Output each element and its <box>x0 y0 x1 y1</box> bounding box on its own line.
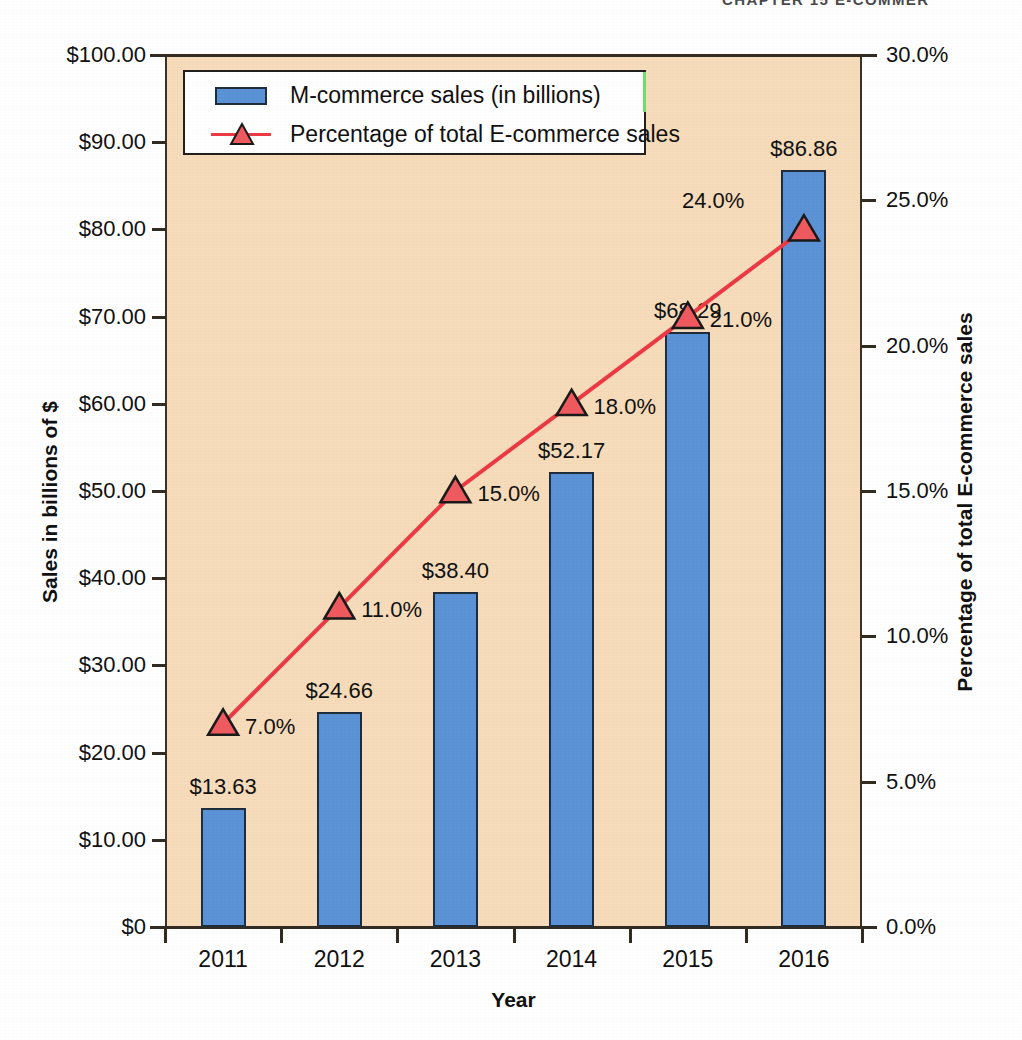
x-axis-tick-label: 2011 <box>198 946 247 973</box>
y-axis-left-tick-mark <box>152 403 166 406</box>
x-axis-tick-mark <box>280 929 283 943</box>
y-axis-right-tick-label: 5.0% <box>886 769 936 795</box>
triangle-marker-icon <box>229 122 255 146</box>
bar-2014[interactable] <box>549 472 594 927</box>
combo-chart-figure: Sales in billions of $ Percentage of tot… <box>0 0 1022 1040</box>
bar-value-label-2011: $13.63 <box>189 774 256 800</box>
x-axis-tick-label: 2014 <box>546 946 597 973</box>
y-axis-right-tick-mark <box>862 781 876 784</box>
legend-item-line[interactable]: Percentage of total E-commerce sales <box>185 113 644 155</box>
y-axis-right-tick-mark <box>862 345 876 348</box>
chart-legend[interactable]: M-commerce sales (in billions) Percentag… <box>183 70 646 155</box>
y-axis-left-tick-mark <box>152 577 166 580</box>
x-axis-tick-label: 2015 <box>662 946 713 973</box>
y-axis-right-tick-mark <box>862 490 876 493</box>
bar-2016[interactable] <box>781 170 826 927</box>
y-axis-left-tick-mark <box>152 316 166 319</box>
bar-value-label-2012: $24.66 <box>306 678 373 704</box>
x-axis-tick-mark <box>745 929 748 943</box>
percentage-value-label-2016: 24.0% <box>682 188 744 214</box>
y-axis-left-tick-label: $10.00 <box>0 827 146 853</box>
x-axis-tick-mark <box>513 929 516 943</box>
y-axis-right-tick-mark <box>862 199 876 202</box>
percentage-value-label-2011: 7.0% <box>245 714 295 740</box>
plot-top-border <box>163 54 864 57</box>
percentage-value-label-2013: 15.0% <box>477 481 539 507</box>
bar-value-label-2014: $52.17 <box>538 438 605 464</box>
bar-2012[interactable] <box>317 712 362 927</box>
y-axis-left-tick-mark <box>152 664 166 667</box>
y-axis-left-tick-label: $50.00 <box>0 478 146 504</box>
y-axis-right-tick-label: 10.0% <box>886 623 948 649</box>
y-axis-left-tick-mark <box>152 839 166 842</box>
x-axis-tick-mark <box>861 929 864 943</box>
x-axis-tick-mark <box>396 929 399 943</box>
y-axis-left-tick-label: $60.00 <box>0 391 146 417</box>
y-axis-right-title: Percentage of total E-commerce sales <box>953 302 977 702</box>
bar-2011[interactable] <box>201 808 246 927</box>
y-axis-left-tick-label: $30.00 <box>0 652 146 678</box>
x-axis-tick-label: 2016 <box>778 946 829 973</box>
y-axis-left-tick-label: $0 <box>0 914 146 940</box>
legend-item-bar-label: M-commerce sales (in billions) <box>290 74 601 116</box>
percentage-value-label-2012: 11.0% <box>361 597 422 623</box>
percentage-value-label-2015: 21.0% <box>710 307 772 333</box>
legend-item-line-label: Percentage of total E-commerce sales <box>290 113 680 155</box>
y-axis-left-tick-mark <box>152 752 166 755</box>
y-axis-right-tick-label: 20.0% <box>886 333 948 359</box>
y-axis-right-tick-mark <box>862 54 876 57</box>
y-axis-left-tick-label: $70.00 <box>0 304 146 330</box>
bar-2013[interactable] <box>433 592 478 927</box>
percentage-value-label-2014: 18.0% <box>594 394 656 420</box>
y-axis-left-tick-mark <box>152 141 166 144</box>
bar-2015[interactable] <box>665 332 710 927</box>
y-axis-left-tick-label: $100.00 <box>0 42 146 68</box>
legend-item-bar[interactable]: M-commerce sales (in billions) <box>185 74 644 116</box>
x-axis-tick-mark <box>629 929 632 943</box>
y-axis-right-tick-label: 25.0% <box>886 187 948 213</box>
y-axis-right-tick-mark <box>862 635 876 638</box>
y-axis-right-tick-label: 15.0% <box>886 478 948 504</box>
y-axis-right-tick-mark <box>862 926 876 929</box>
y-axis-left-tick-mark <box>152 490 166 493</box>
y-axis-left-tick-label: $40.00 <box>0 565 146 591</box>
y-axis-left-tick-label: $20.00 <box>0 740 146 766</box>
y-axis-right-tick-label: 0.0% <box>886 914 936 940</box>
x-axis-tick-label: 2013 <box>430 946 481 973</box>
x-axis-tick-mark <box>164 929 167 943</box>
bar-value-label-2013: $38.40 <box>422 558 489 584</box>
bar-value-label-2016: $86.86 <box>770 136 837 162</box>
y-axis-left-tick-mark <box>152 228 166 231</box>
y-axis-left-tick-label: $90.00 <box>0 129 146 155</box>
y-axis-left-tick-mark <box>152 54 166 57</box>
x-axis-title: Year <box>165 988 862 1012</box>
bar-swatch-icon <box>215 87 267 105</box>
x-axis-tick-label: 2012 <box>314 946 365 973</box>
y-axis-left-tick-label: $80.00 <box>0 216 146 242</box>
y-axis-right-tick-label: 30.0% <box>886 42 948 68</box>
